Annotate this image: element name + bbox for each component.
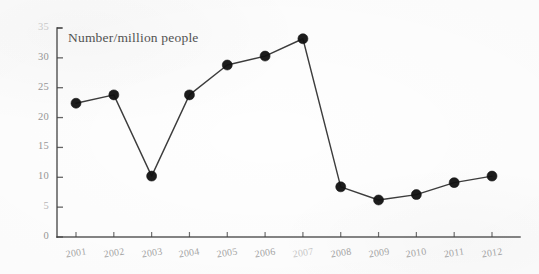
y-tick-label: 0 bbox=[27, 230, 49, 241]
data-point-marker bbox=[147, 171, 157, 181]
data-point-marker bbox=[449, 178, 459, 188]
chart-title: Number/million people bbox=[68, 30, 199, 46]
data-point-marker bbox=[222, 60, 232, 70]
y-tick-label: 20 bbox=[27, 111, 49, 122]
data-point-marker bbox=[184, 90, 194, 100]
chart-figure: Number/million people 05101520253035 200… bbox=[0, 0, 539, 274]
y-axis-ticks bbox=[57, 28, 63, 237]
y-tick-label: 15 bbox=[27, 140, 49, 151]
y-tick-label: 5 bbox=[27, 200, 49, 211]
y-tick-label: 30 bbox=[27, 51, 49, 62]
y-tick-label: 35 bbox=[27, 21, 49, 32]
y-tick-label: 25 bbox=[27, 81, 49, 92]
data-point-marker bbox=[374, 195, 384, 205]
data-point-marker bbox=[336, 182, 346, 192]
data-point-marker bbox=[109, 90, 119, 100]
data-series-line bbox=[76, 39, 492, 200]
data-point-marker bbox=[487, 171, 497, 181]
data-point-markers bbox=[71, 34, 497, 205]
chart-axes bbox=[57, 28, 520, 237]
data-point-marker bbox=[411, 190, 421, 200]
data-point-marker bbox=[260, 51, 270, 61]
data-point-marker bbox=[71, 98, 81, 108]
y-tick-label: 10 bbox=[27, 170, 49, 181]
data-point-marker bbox=[298, 34, 308, 44]
